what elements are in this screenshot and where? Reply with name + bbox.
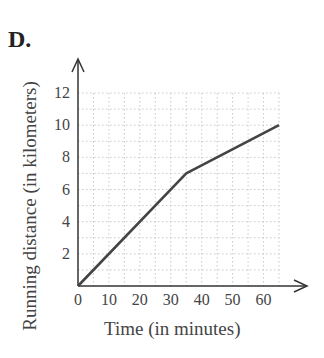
grid-lines (78, 93, 279, 286)
y-tick-label: 6 (62, 181, 70, 198)
line-chart: 010203040506024681012 (0, 0, 324, 358)
x-tick-label: 40 (194, 291, 210, 308)
x-tick-label: 20 (132, 291, 148, 308)
y-tick-label: 8 (62, 148, 70, 165)
x-tick-label: 10 (101, 291, 117, 308)
x-tick-label: 30 (163, 291, 179, 308)
y-tick-label: 2 (62, 245, 70, 262)
y-tick-label: 12 (54, 84, 70, 101)
x-tick-label: 60 (256, 291, 272, 308)
y-tick-label: 10 (54, 116, 70, 133)
x-tick-label: 0 (74, 291, 82, 308)
x-tick-label: 50 (225, 291, 241, 308)
y-tick-label: 4 (62, 213, 70, 230)
